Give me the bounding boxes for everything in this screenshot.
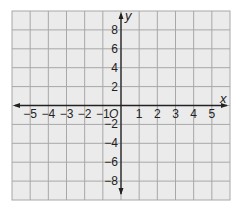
x-tick-label: −3 xyxy=(60,107,74,121)
x-tick-label: −4 xyxy=(41,107,55,121)
y-tick-label: 2 xyxy=(111,80,118,94)
y-tick-label: −8 xyxy=(104,174,118,188)
x-tick-label: 3 xyxy=(172,107,179,121)
y-tick-label: 6 xyxy=(111,42,118,56)
x-tick-label: 1 xyxy=(136,107,143,121)
x-tick-label: 4 xyxy=(190,107,197,121)
x-tick-label: −2 xyxy=(78,107,92,121)
y-tick-label: −6 xyxy=(104,155,118,169)
x-tick-label: 2 xyxy=(154,107,161,121)
origin-label: O xyxy=(109,107,118,121)
coordinate-plane: −5−4−3−2−112345 8642−2−4−6−8 x y O xyxy=(0,0,243,210)
x-tick-label: −5 xyxy=(23,107,37,121)
y-tick-label: −4 xyxy=(104,136,118,150)
y-tick-label: 4 xyxy=(111,61,118,75)
x-axis-label: x xyxy=(219,91,227,106)
y-tick-label: 8 xyxy=(111,23,118,37)
x-tick-label: 5 xyxy=(208,107,215,121)
